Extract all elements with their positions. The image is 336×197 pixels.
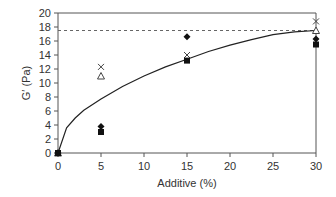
marker-diamond [313, 35, 320, 42]
y-tick-label: 16 [39, 35, 51, 47]
marker-cross [98, 64, 104, 70]
x-tick-label: 15 [181, 160, 193, 172]
y-tick-label: 10 [39, 77, 51, 89]
y-tick-label: 8 [45, 91, 51, 103]
y-tick-label: 4 [45, 119, 51, 131]
y-tick-label: 0 [45, 147, 51, 159]
fit-curve [58, 31, 316, 154]
x-tick-label: 10 [138, 160, 150, 172]
marker-square [98, 129, 104, 135]
y-tick-label: 14 [39, 49, 51, 61]
marker-diamond [98, 123, 105, 130]
marker-square [184, 58, 190, 64]
x-tick-label: 25 [267, 160, 279, 172]
x-tick-label: 5 [98, 160, 104, 172]
marker-diamond [184, 33, 191, 40]
x-axis-title: Additive (%) [157, 177, 216, 189]
y-tick-label: 2 [45, 133, 51, 145]
y-tick-label: 12 [39, 63, 51, 75]
marker-cross [184, 52, 190, 58]
y-tick-label: 6 [45, 105, 51, 117]
x-tick-label: 20 [224, 160, 236, 172]
marker-square [55, 150, 61, 156]
marker-square [313, 42, 319, 48]
x-tick-label: 30 [310, 160, 322, 172]
x-tick-label: 0 [55, 160, 61, 172]
marker-triangle [98, 73, 105, 80]
y-tick-label: 20 [39, 7, 51, 19]
y-axis-title: G′ (Pa) [20, 66, 32, 100]
chart: 02468101214161820051015202530Additive (%… [0, 0, 336, 197]
y-tick-label: 18 [39, 21, 51, 33]
plot-area: 02468101214161820051015202530Additive (%… [20, 7, 322, 189]
